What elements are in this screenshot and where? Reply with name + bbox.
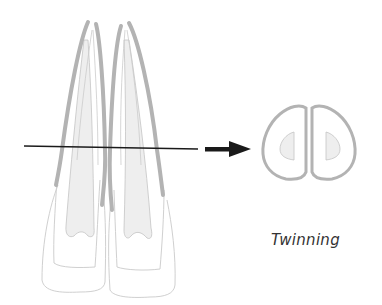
- cross-section: [263, 106, 355, 179]
- arrow-icon: [205, 141, 251, 157]
- twinning-diagram: [0, 0, 382, 305]
- left-tooth: [42, 22, 106, 292]
- right-tooth: [109, 23, 176, 297]
- caption: Twinning: [271, 231, 340, 249]
